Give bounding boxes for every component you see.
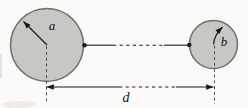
connector-right-endpoint-dot: [187, 43, 191, 47]
distance-d-label: d: [123, 90, 131, 105]
radius-a-label: a: [49, 18, 56, 33]
diagram-canvas: a b d: [0, 0, 248, 108]
radius-b-label: b: [221, 34, 228, 49]
two-circles-distance-diagram: a b d: [0, 0, 248, 108]
